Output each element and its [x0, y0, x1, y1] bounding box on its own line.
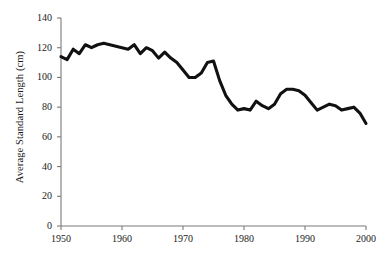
chart-figure: Average Standard Length (cm) 02040608010… — [0, 0, 392, 259]
plot-area — [0, 0, 392, 259]
y-axis-ticks — [57, 18, 61, 226]
axis-lines — [61, 18, 366, 226]
data-series-line — [61, 43, 366, 123]
x-axis-ticks — [61, 226, 366, 230]
